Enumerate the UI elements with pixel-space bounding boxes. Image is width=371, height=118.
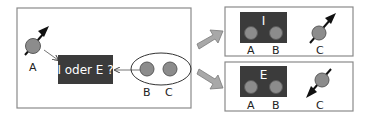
- particle-b-circle: [270, 81, 283, 94]
- particle-a-label: A: [247, 44, 255, 57]
- particle-c-label: C: [165, 86, 173, 99]
- particle-a-circle: [245, 27, 258, 40]
- question-box-text: I oder E ?: [57, 63, 113, 77]
- particle-c-circle: [163, 62, 177, 76]
- block-arrow-up: [197, 30, 223, 49]
- particle-c-circle: [312, 26, 326, 40]
- left-panel: A I oder E ? B C: [17, 8, 191, 108]
- particle-b-label: B: [272, 44, 280, 57]
- particle-a-circle: [245, 81, 258, 94]
- particle-c-label: C: [316, 99, 324, 112]
- diagram-canvas: A I oder E ? B C I A B: [0, 0, 371, 118]
- particle-b-circle: [270, 27, 283, 40]
- question-box: I oder E ?: [57, 55, 113, 84]
- particle-a-label: A: [29, 61, 37, 74]
- block-arrow-up-icon: [197, 30, 223, 49]
- particle-a-circle: [26, 39, 41, 54]
- particle-b-label: B: [143, 86, 151, 99]
- particle-c-circle: [315, 73, 329, 87]
- block-arrow-down-icon: [197, 69, 223, 89]
- particle-a-label: A: [247, 99, 255, 112]
- block-arrow-down: [197, 69, 223, 89]
- particle-c-label: C: [316, 44, 324, 57]
- pair-box-i-label: I: [262, 14, 266, 28]
- particle-b-circle: [140, 62, 154, 76]
- bottom-right-panel: E A B C: [225, 62, 353, 112]
- particle-b-label: B: [272, 99, 280, 112]
- top-right-panel: I A B C: [225, 7, 353, 57]
- pair-box-e-label: E: [260, 68, 268, 82]
